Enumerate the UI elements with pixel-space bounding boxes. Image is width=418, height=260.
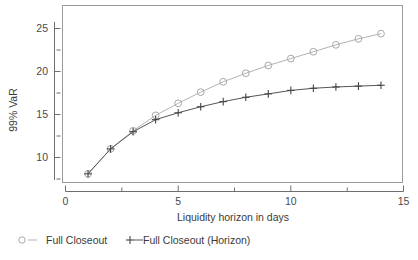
var-line-chart: 25 20 15 10 99% VaR 0 5 10 15 Liquidity …: [0, 0, 418, 260]
x-tick-label-10: 10: [285, 195, 297, 207]
x-axis-title: Liquidity horizon in days: [177, 211, 289, 223]
legend-label-full-closeout: Full Closeout: [46, 234, 107, 246]
x-tick-label-15: 15: [398, 195, 410, 207]
y-tick-label-20: 20: [36, 65, 48, 77]
y-tick-label-10: 10: [36, 151, 48, 163]
y-tick-label-15: 15: [36, 108, 48, 120]
x-tick-label-5: 5: [175, 195, 181, 207]
y-axis-title: 99% VaR: [7, 88, 19, 132]
chart-figure: 25 20 15 10 99% VaR 0 5 10 15 Liquidity …: [0, 0, 418, 260]
legend-entry-full-closeout-horizon[interactable]: Full Closeout (Horizon): [126, 234, 250, 246]
y-tick-label-25: 25: [36, 22, 48, 34]
x-tick-label-0: 0: [63, 195, 69, 207]
legend-label-full-closeout-horizon: Full Closeout (Horizon): [143, 234, 250, 246]
